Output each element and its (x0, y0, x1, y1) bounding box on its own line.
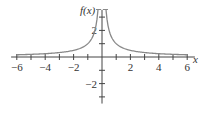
x-tick-label: 6 (184, 61, 190, 73)
y-axis-label: f(x) (80, 4, 96, 17)
curve-left-branch (17, 10, 98, 55)
x-tick-label: −2 (68, 61, 80, 73)
x-tick-label: 4 (156, 61, 162, 73)
axes (11, 10, 195, 104)
x-tick-label: 2 (128, 61, 134, 73)
x-tick-label: −6 (11, 61, 23, 73)
function-plot: −6−4−22462−2 x f(x) (0, 0, 202, 116)
x-tick-label: −4 (39, 61, 51, 73)
curve-right-branch (106, 10, 187, 55)
y-tick-label: −2 (85, 78, 97, 90)
x-axis-label: x (192, 53, 198, 65)
